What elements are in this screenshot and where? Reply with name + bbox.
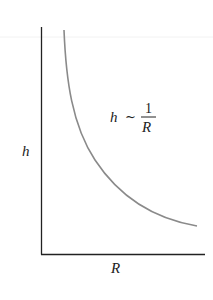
inverse-relationship-diagram: h R h ~ 1 R — [0, 0, 213, 300]
formula-denominator: R — [141, 119, 151, 135]
formula-numerator: 1 — [145, 101, 152, 116]
formula-lhs: h — [110, 109, 118, 125]
formula-annotation: h ~ 1 R — [110, 101, 156, 135]
formula-relation: ~ — [125, 109, 136, 124]
inverse-curve — [64, 30, 197, 226]
y-axis-label: h — [22, 143, 30, 159]
x-axis-label: R — [110, 260, 120, 276]
